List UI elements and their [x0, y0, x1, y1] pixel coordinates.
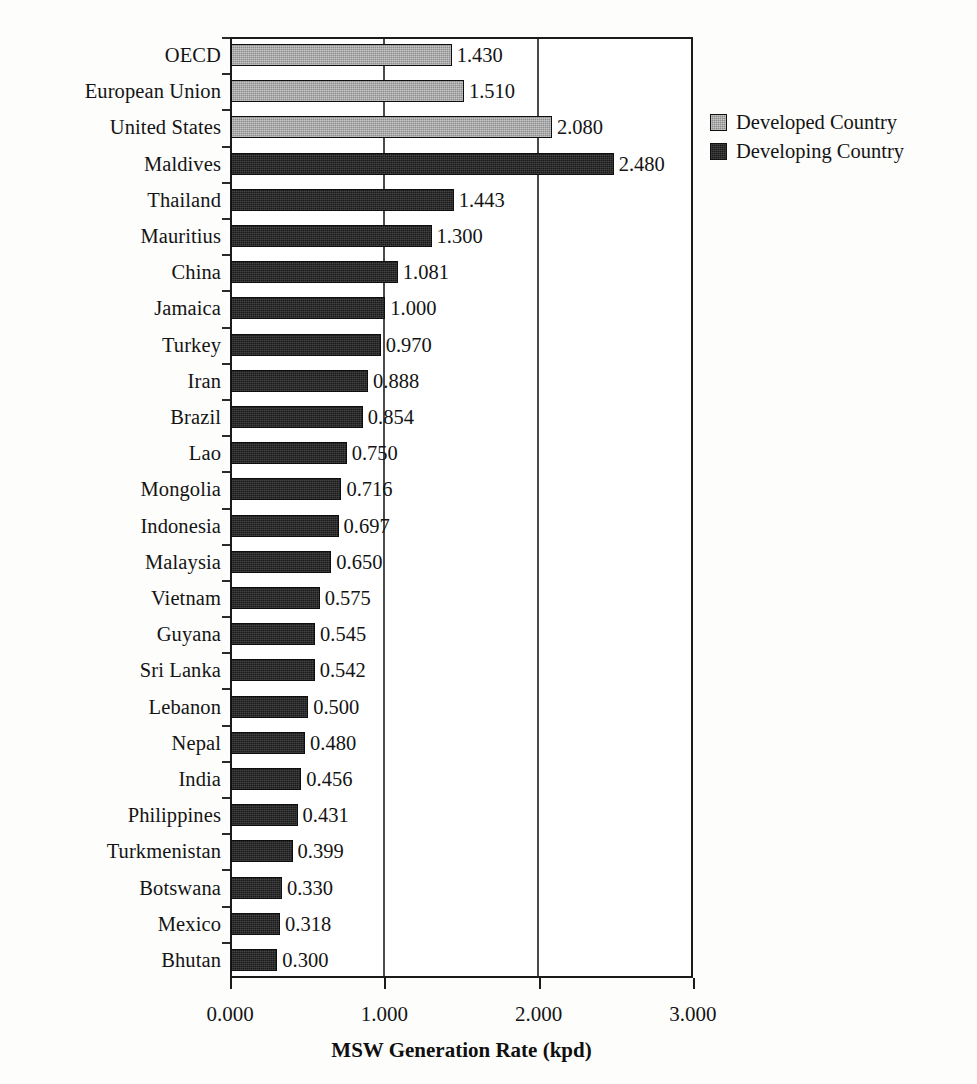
y-axis-tick	[222, 218, 230, 220]
y-axis-tick	[222, 761, 230, 763]
x-axis-tick-label: 3.000	[669, 1002, 716, 1027]
bar-row: OECD1.430	[0, 37, 977, 73]
bar-row: European Union1.510	[0, 73, 977, 109]
bar[interactable]	[231, 189, 454, 211]
category-label: Turkey	[162, 333, 221, 356]
bar-value-label: 0.500	[313, 695, 359, 718]
bar-value-label: 0.318	[285, 912, 331, 935]
bar-row: Jamaica1.000	[0, 290, 977, 326]
bar[interactable]	[231, 297, 385, 319]
bar-value-label: 0.750	[352, 442, 398, 465]
bar[interactable]	[231, 334, 381, 356]
bar[interactable]	[231, 370, 368, 392]
y-axis-tick	[222, 290, 230, 292]
bar[interactable]	[231, 913, 280, 935]
chart-page: OECD1.430European Union1.510United State…	[0, 0, 977, 1084]
category-label: Sri Lanka	[140, 659, 221, 682]
bar[interactable]	[231, 406, 363, 428]
y-axis-tick	[222, 471, 230, 473]
bar[interactable]	[231, 840, 293, 862]
bar-value-label: 1.430	[457, 44, 503, 67]
bar[interactable]	[231, 515, 339, 537]
bar-value-label: 0.300	[282, 948, 328, 971]
category-label: Turkmenistan	[107, 840, 221, 863]
bar-row: Iran0.888	[0, 363, 977, 399]
category-label: Mongolia	[140, 478, 221, 501]
category-label: Nepal	[172, 731, 221, 754]
x-axis-tick	[384, 978, 386, 989]
y-axis-tick	[222, 327, 230, 329]
y-axis-tick	[222, 688, 230, 690]
y-axis-tick	[222, 906, 230, 908]
bar-value-label: 0.970	[386, 333, 432, 356]
bar-value-label: 0.330	[287, 876, 333, 899]
bar-value-label: 0.399	[298, 840, 344, 863]
bar[interactable]	[231, 659, 315, 681]
bar[interactable]	[231, 261, 398, 283]
category-label: Lao	[189, 442, 221, 465]
x-axis-tick-label: 2.000	[515, 1002, 562, 1027]
bar-row: Vietnam0.575	[0, 580, 977, 616]
bar-row: Sri Lanka0.542	[0, 652, 977, 688]
legend: Developed Country Developing Country	[710, 108, 960, 166]
y-axis-tick	[222, 435, 230, 437]
bar-value-label: 0.575	[325, 586, 371, 609]
bar-row: Thailand1.443	[0, 182, 977, 218]
category-label: United States	[110, 116, 221, 139]
y-axis-tick	[222, 399, 230, 401]
bar[interactable]	[231, 116, 552, 138]
bar[interactable]	[231, 732, 305, 754]
y-axis-tick	[222, 508, 230, 510]
category-label: European Union	[85, 80, 221, 103]
bar[interactable]	[231, 478, 341, 500]
bar[interactable]	[231, 696, 308, 718]
legend-item-developing[interactable]: Developing Country	[710, 137, 960, 166]
bar[interactable]	[231, 44, 452, 66]
bar[interactable]	[231, 768, 301, 790]
x-axis-tick-label: 1.000	[361, 1002, 408, 1027]
bar-value-label: 0.545	[320, 623, 366, 646]
y-axis-tick	[222, 544, 230, 546]
bar[interactable]	[231, 225, 432, 247]
bar-rows: OECD1.430European Union1.510United State…	[0, 37, 977, 978]
y-axis-tick	[222, 254, 230, 256]
y-axis-tick	[222, 833, 230, 835]
category-label: Botswana	[139, 876, 221, 899]
bar[interactable]	[231, 587, 320, 609]
bar[interactable]	[231, 949, 277, 971]
bar-row: Malaysia0.650	[0, 544, 977, 580]
bar-row: Turkmenistan0.399	[0, 833, 977, 869]
bar[interactable]	[231, 153, 614, 175]
bar[interactable]	[231, 80, 464, 102]
legend-item-developed[interactable]: Developed Country	[710, 108, 960, 137]
bar[interactable]	[231, 623, 315, 645]
bar-value-label: 0.716	[346, 478, 392, 501]
bar[interactable]	[231, 877, 282, 899]
bar-row: Turkey0.970	[0, 327, 977, 363]
category-label: India	[178, 767, 221, 790]
category-label: OECD	[165, 44, 221, 67]
x-axis-tick-label: 0.000	[206, 1002, 253, 1027]
y-axis-tick	[222, 652, 230, 654]
y-axis-tick	[222, 109, 230, 111]
bar-row: Botswana0.330	[0, 869, 977, 905]
y-axis-tick	[222, 616, 230, 618]
category-label: Brazil	[170, 406, 221, 429]
bar[interactable]	[231, 442, 347, 464]
x-axis-tick	[539, 978, 541, 989]
y-axis-tick	[222, 869, 230, 871]
y-axis-tick	[222, 182, 230, 184]
category-label: Mexico	[158, 912, 221, 935]
y-axis-tick	[222, 942, 230, 944]
y-axis-tick	[222, 580, 230, 582]
bar-value-label: 1.443	[459, 188, 505, 211]
bar-value-label: 0.888	[373, 369, 419, 392]
bar-row: Guyana0.545	[0, 616, 977, 652]
y-axis-tick	[222, 73, 230, 75]
category-label: Vietnam	[151, 586, 221, 609]
bar[interactable]	[231, 804, 298, 826]
x-axis-ticks	[0, 978, 977, 990]
x-axis-title: MSW Generation Rate (kpd)	[230, 1038, 693, 1063]
bar-value-label: 1.300	[437, 225, 483, 248]
bar[interactable]	[231, 551, 331, 573]
